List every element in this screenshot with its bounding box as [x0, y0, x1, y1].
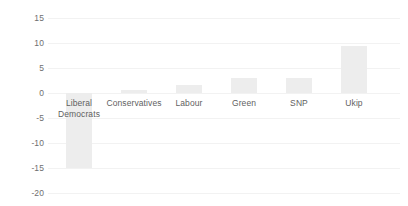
- y-tick-label: -15: [4, 164, 44, 173]
- bar-chart: 15 10 5 0 -5 -10 -15 -20 Liberal Democra…: [0, 0, 408, 206]
- y-tick-label: 0: [4, 89, 44, 98]
- y-tick-label: -10: [4, 139, 44, 148]
- gridline: [48, 43, 400, 44]
- category-label-conservatives: Conservatives: [98, 98, 170, 109]
- category-label-green: Green: [218, 98, 270, 109]
- y-tick-label: -20: [4, 189, 44, 198]
- gridline: [48, 93, 400, 94]
- y-tick-label: 10: [4, 39, 44, 48]
- bar-conservatives: [121, 90, 147, 93]
- gridline: [48, 143, 400, 144]
- bar-green: [231, 78, 257, 93]
- category-label-labour: Labour: [163, 98, 215, 109]
- category-label-ukip: Ukip: [328, 98, 380, 109]
- y-tick-label: -5: [4, 114, 44, 123]
- bar-ukip: [341, 46, 367, 93]
- y-tick-label: 5: [4, 64, 44, 73]
- bar-labour: [176, 85, 202, 93]
- gridline: [48, 168, 400, 169]
- gridline: [48, 18, 400, 19]
- y-axis: 15 10 5 0 -5 -10 -15 -20: [0, 0, 44, 206]
- y-tick-label: 15: [4, 14, 44, 23]
- plot-area: Liberal Democrats Conservatives Labour G…: [48, 0, 400, 206]
- bar-snp: [286, 78, 312, 93]
- category-label-snp: SNP: [273, 98, 325, 109]
- gridline: [48, 193, 400, 194]
